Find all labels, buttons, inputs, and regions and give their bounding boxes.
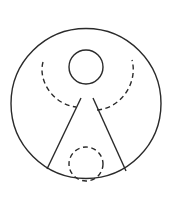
outer-circle [11, 29, 161, 179]
left-body-line [47, 98, 81, 169]
bottom-dashed-circle [69, 147, 103, 181]
head-circle [69, 50, 103, 84]
dashed-arms-arc [42, 60, 133, 110]
right-body-line [93, 98, 126, 171]
symbol-diagram [0, 0, 169, 203]
